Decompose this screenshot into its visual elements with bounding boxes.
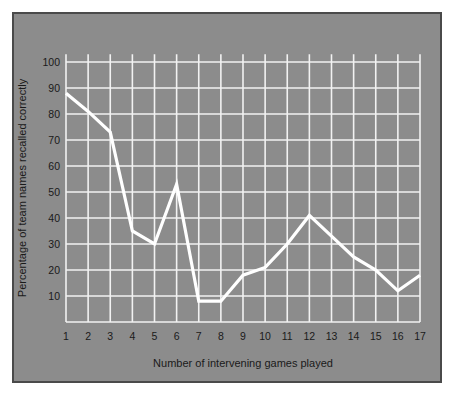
y-tick-label: 90 — [32, 83, 60, 94]
x-tick-label: 9 — [240, 331, 246, 342]
x-tick-label: 3 — [107, 331, 113, 342]
y-tick-label: 50 — [32, 187, 60, 198]
x-tick-label: 11 — [282, 331, 293, 342]
x-tick-label: 7 — [196, 331, 202, 342]
y-tick-label: 80 — [32, 109, 60, 120]
x-tick-label: 2 — [85, 331, 91, 342]
figure: 102030405060708090100 123456789101112131… — [0, 0, 456, 400]
vertical-gridlines — [66, 54, 420, 322]
y-tick-label: 10 — [32, 291, 60, 302]
y-tick-label: 30 — [32, 239, 60, 250]
x-axis-title: Number of intervening games played — [153, 357, 333, 369]
y-tick-label: 70 — [32, 135, 60, 146]
x-tick-label: 5 — [152, 331, 158, 342]
x-tick-label: 10 — [259, 331, 271, 342]
x-tick-label: 15 — [370, 331, 382, 342]
y-axis-title: Percentage of team names recalled correc… — [16, 79, 28, 297]
x-tick-label: 13 — [326, 331, 338, 342]
y-tick-label: 20 — [32, 265, 60, 276]
x-tick-label: 6 — [174, 331, 180, 342]
y-tick-label: 60 — [32, 161, 60, 172]
x-tick-label: 1 — [63, 331, 69, 342]
y-tick-label: 40 — [32, 213, 60, 224]
x-tick-label: 14 — [348, 331, 360, 342]
x-tick-label: 8 — [218, 331, 224, 342]
x-tick-label: 12 — [304, 331, 316, 342]
x-tick-label: 4 — [129, 331, 135, 342]
x-tick-label: 16 — [392, 331, 404, 342]
x-tick-label: 17 — [414, 331, 426, 342]
y-tick-label: 100 — [32, 57, 60, 68]
